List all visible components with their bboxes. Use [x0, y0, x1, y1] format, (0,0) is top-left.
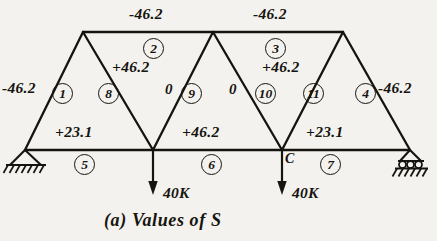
force-label-top-right: -46.2 [253, 6, 287, 22]
member-number-8: 8 [98, 83, 119, 104]
member-number-3: 3 [265, 38, 286, 59]
force-label-diagonal-8: +46.2 [112, 59, 149, 75]
member-number-9: 9 [181, 83, 202, 104]
member-number-10: 10 [255, 83, 276, 104]
member-number-4: 4 [355, 83, 376, 104]
force-label-diagonal-11: +46.2 [262, 59, 299, 75]
roller-support-icon [393, 150, 429, 177]
force-label-bottom-left: +23.1 [55, 124, 92, 140]
force-label-left-end: -46.2 [2, 80, 36, 96]
member-number-11: 11 [303, 83, 324, 104]
member-number-6: 6 [201, 154, 222, 175]
load-label-right: 40K [292, 185, 319, 201]
force-label-bottom-right: +23.1 [306, 124, 343, 140]
force-label-diagonal-10: 0 [229, 82, 237, 97]
member-number-1: 1 [52, 83, 73, 104]
truss-figure: -46.2 -46.2 -46.2 -46.2 +46.2 +46.2 0 0 … [0, 0, 437, 241]
force-label-bottom-mid: +46.2 [182, 124, 219, 140]
force-label-right-end: -46.2 [378, 80, 412, 96]
figure-caption: (a) Values of S [104, 211, 222, 229]
load-arrow-left [148, 150, 157, 195]
force-label-top-left: -46.2 [129, 6, 163, 22]
member-number-5: 5 [74, 154, 95, 175]
node-label-c: C [285, 152, 295, 166]
member-number-7: 7 [320, 154, 341, 175]
member-number-2: 2 [143, 38, 164, 59]
load-label-left: 40K [163, 185, 190, 201]
force-label-diagonal-9: 0 [165, 82, 173, 97]
pin-support-icon [4, 150, 47, 173]
truss-linework [0, 0, 437, 241]
